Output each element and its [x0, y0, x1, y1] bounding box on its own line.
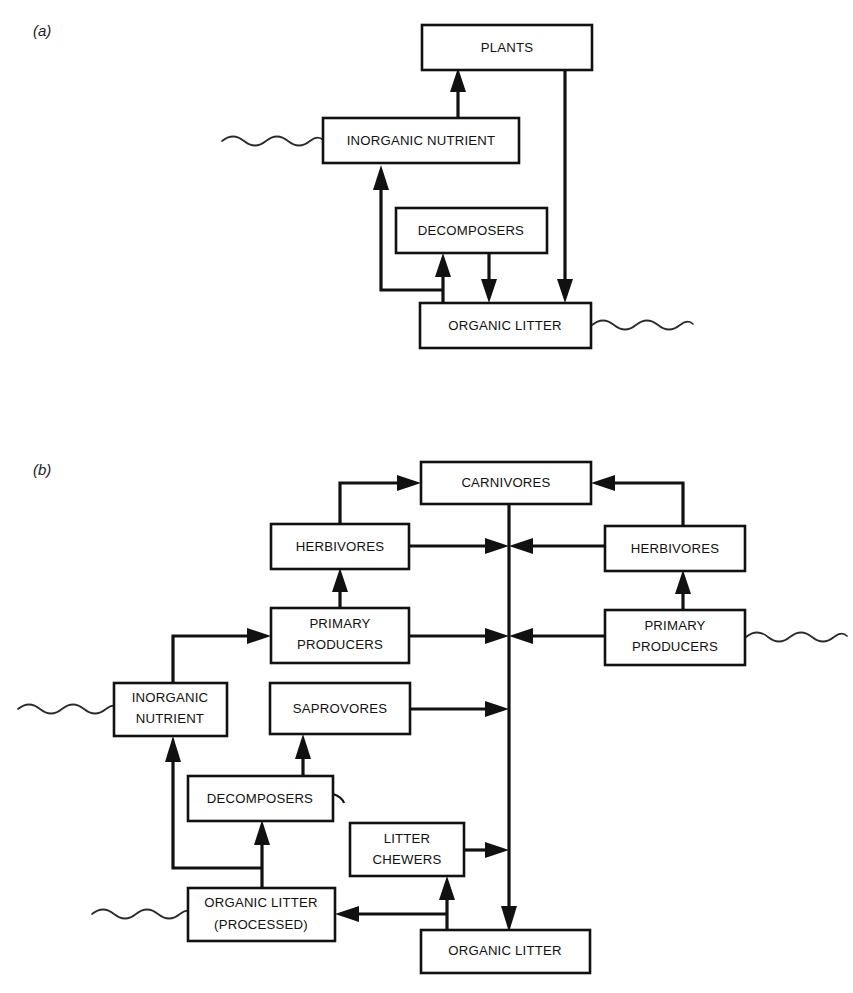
ecosystem-flow-diagram: (a)	[0, 0, 853, 993]
box-primary-producers-left-label-line1: PRIMARY	[309, 616, 370, 631]
box-inorganic-nutrient-a[interactable]: INORGANIC NUTRIENT	[323, 118, 519, 163]
box-primary-producers-left-label-line2: PRODUCERS	[297, 637, 383, 652]
wavy-connector-organic-litter-processed-left-b	[92, 910, 193, 919]
flow-inorganic-nutrient-to-plants	[450, 68, 466, 118]
flow-primary-producers-right-to-detritus-column	[509, 628, 605, 644]
box-herbivores-left[interactable]: HERBIVORES	[271, 524, 409, 569]
box-saprovores-label: SAPROVORES	[293, 701, 387, 716]
box-primary-producers-right-label-line2: PRODUCERS	[632, 639, 718, 654]
flow-organic-litter-to-decomposers	[435, 253, 451, 303]
flow-primary-producers-right-to-herbivores-right	[675, 570, 691, 610]
box-decomposers-a[interactable]: DECOMPOSERS	[396, 208, 547, 253]
box-decomposers-b-label: DECOMPOSERS	[207, 791, 313, 806]
flow-carnivores-to-organic-litter	[501, 504, 517, 932]
box-carnivores[interactable]: CARNIVORES	[421, 462, 591, 504]
panel-b: (b)	[18, 461, 847, 973]
box-organic-litter-b-label: ORGANIC LITTER	[448, 943, 561, 958]
box-inorganic-nutrient-a-label: INORGANIC NUTRIENT	[347, 133, 496, 148]
wavy-connector-inorganic-nutrient-left-b	[18, 705, 119, 714]
box-litter-chewers-label-line1: LITTER	[384, 831, 431, 846]
box-decomposers-a-label: DECOMPOSERS	[418, 223, 524, 238]
flow-organic-litter-to-organic-litter-processed	[335, 906, 447, 922]
box-litter-chewers-label-line2: CHEWERS	[373, 852, 442, 867]
box-primary-producers-right[interactable]: PRIMARY PRODUCERS	[605, 610, 745, 665]
box-organic-litter-processed[interactable]: ORGANIC LITTER (PROCESSED)	[188, 888, 335, 941]
panel-a-label: (a)	[33, 22, 51, 39]
box-primary-producers-left[interactable]: PRIMARY PRODUCERS	[271, 608, 409, 663]
box-primary-producers-right-label-line1: PRIMARY	[644, 618, 705, 633]
flow-primary-producers-left-to-detritus-column	[409, 628, 509, 644]
box-organic-litter-a[interactable]: ORGANIC LITTER	[420, 303, 591, 348]
box-herbivores-right[interactable]: HERBIVORES	[605, 526, 745, 571]
flow-decomposers-to-organic-litter	[481, 253, 497, 303]
flow-herbivores-right-to-detritus-column	[509, 538, 605, 554]
wavy-connector-inorganic-nutrient-left-a	[222, 137, 323, 146]
box-decomposers-b[interactable]: DECOMPOSERS	[188, 776, 333, 821]
box-plants-label: PLANTS	[481, 40, 534, 55]
box-carnivores-label: CARNIVORES	[461, 475, 550, 490]
panel-b-label: (b)	[33, 461, 51, 478]
flow-inorganic-nutrient-to-primary-producers-left	[173, 628, 271, 683]
box-litter-chewers[interactable]: LITTER CHEWERS	[350, 823, 464, 876]
flow-herbivores-left-to-carnivores	[340, 475, 421, 524]
box-herbivores-left-label: HERBIVORES	[296, 539, 384, 554]
box-inorganic-nutrient-b-label-line2: NUTRIENT	[136, 711, 204, 726]
box-herbivores-right-label: HERBIVORES	[631, 541, 719, 556]
wavy-connector-organic-litter-right-a	[592, 321, 693, 330]
box-organic-litter-processed-label-line1: ORGANIC LITTER	[204, 895, 317, 910]
box-organic-litter-a-label: ORGANIC LITTER	[448, 318, 561, 333]
box-saprovores[interactable]: SAPROVORES	[270, 683, 410, 734]
box-inorganic-nutrient-b[interactable]: INORGANIC NUTRIENT	[114, 683, 227, 736]
box-organic-litter-processed-label-line2: (PROCESSED)	[214, 917, 308, 932]
box-inorganic-nutrient-b-label-line1: INORGANIC	[132, 690, 209, 705]
flow-herbivores-right-to-carnivores	[591, 475, 683, 526]
flow-saprovores-to-detritus-column	[410, 701, 509, 717]
flow-plants-to-organic-litter	[557, 70, 573, 303]
flow-litter-chewers-to-detritus-column	[464, 842, 509, 858]
flow-herbivores-left-to-detritus-column	[409, 538, 509, 554]
flow-organic-litter-to-litter-chewers	[439, 876, 455, 930]
decomposers-edge-tick-b	[333, 794, 344, 803]
box-organic-litter-b[interactable]: ORGANIC LITTER	[421, 930, 590, 973]
flow-decomposers-to-saprovores	[295, 734, 311, 776]
wavy-connector-primary-producers-right-b	[746, 633, 847, 642]
panel-a: (a)	[33, 22, 693, 348]
flow-primary-producers-left-to-herbivores-left	[332, 568, 348, 608]
flow-organic-litter-processed-to-decomposers	[254, 820, 270, 888]
box-plants[interactable]: PLANTS	[422, 25, 592, 70]
